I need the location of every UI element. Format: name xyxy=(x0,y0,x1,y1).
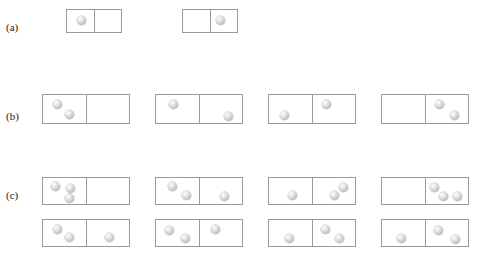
box-half-right xyxy=(199,220,242,246)
box-partition-divider xyxy=(210,10,211,32)
box-partition-divider xyxy=(86,95,87,123)
particle-ball xyxy=(439,192,448,201)
particle-ball xyxy=(182,191,191,200)
particle-ball xyxy=(322,100,331,109)
microstate-box xyxy=(268,94,356,124)
particle-ball xyxy=(165,226,174,235)
particle-ball xyxy=(288,191,297,200)
particle-ball xyxy=(280,111,289,120)
microstate-box xyxy=(381,94,469,124)
box-half-right xyxy=(312,95,355,123)
particle-ball xyxy=(53,225,62,234)
box-partition-divider xyxy=(86,178,87,204)
particle-ball xyxy=(430,183,439,192)
row-label-a: (a) xyxy=(6,22,18,33)
particle-ball xyxy=(216,16,225,25)
microstate-box xyxy=(381,177,469,205)
particle-ball xyxy=(335,234,344,243)
particle-ball xyxy=(77,16,86,25)
box-partition-divider xyxy=(199,95,200,123)
box-half-left xyxy=(183,10,210,32)
box-half-left xyxy=(269,95,312,123)
box-partition-divider xyxy=(312,178,313,204)
microstate-box xyxy=(155,219,243,247)
box-partition-divider xyxy=(425,178,426,204)
particle-ball xyxy=(168,182,177,191)
particle-ball xyxy=(220,192,229,201)
particle-ball xyxy=(51,182,60,191)
particle-ball xyxy=(105,233,114,242)
particle-ball xyxy=(397,234,406,243)
box-half-left xyxy=(156,178,199,204)
box-partition-divider xyxy=(199,178,200,204)
particle-ball xyxy=(211,225,220,234)
figure-canvas: (a)(b)(c) xyxy=(0,0,477,253)
microstate-box xyxy=(66,9,122,33)
particle-ball xyxy=(321,225,330,234)
box-half-right xyxy=(94,10,121,32)
particle-ball xyxy=(169,100,178,109)
particle-ball xyxy=(453,192,462,201)
box-partition-divider xyxy=(312,95,313,123)
box-half-right xyxy=(86,178,129,204)
particle-ball xyxy=(435,100,444,109)
microstate-box xyxy=(268,177,356,205)
particle-ball xyxy=(53,100,62,109)
particle-ball xyxy=(224,112,233,121)
box-half-right xyxy=(425,95,468,123)
box-half-right xyxy=(199,95,242,123)
box-partition-divider xyxy=(425,220,426,246)
particle-ball xyxy=(65,194,74,203)
box-half-left xyxy=(382,178,425,204)
microstate-box xyxy=(268,219,356,247)
box-partition-divider xyxy=(425,95,426,123)
box-half-left xyxy=(156,220,199,246)
box-partition-divider xyxy=(86,220,87,246)
microstate-box xyxy=(42,219,130,247)
box-half-left xyxy=(43,95,86,123)
particle-ball xyxy=(65,233,74,242)
row-label-c: (c) xyxy=(6,190,18,201)
box-partition-divider xyxy=(199,220,200,246)
box-half-right xyxy=(86,95,129,123)
particle-ball xyxy=(451,235,460,244)
microstate-box xyxy=(155,94,243,124)
box-partition-divider xyxy=(312,220,313,246)
box-half-right xyxy=(425,220,468,246)
box-half-left xyxy=(43,220,86,246)
particle-ball xyxy=(450,111,459,120)
particle-ball xyxy=(339,183,348,192)
microstate-box xyxy=(42,177,130,205)
row-label-b: (b) xyxy=(6,111,19,122)
microstate-box xyxy=(155,177,243,205)
box-half-left xyxy=(382,95,425,123)
box-partition-divider xyxy=(94,10,95,32)
box-half-right xyxy=(199,178,242,204)
particle-ball xyxy=(434,226,443,235)
particle-ball xyxy=(181,234,190,243)
box-half-left xyxy=(156,95,199,123)
particle-ball xyxy=(66,184,75,193)
particle-ball xyxy=(330,191,339,200)
microstate-box xyxy=(182,9,238,33)
microstate-box xyxy=(381,219,469,247)
box-half-right xyxy=(312,220,355,246)
particle-ball xyxy=(285,234,294,243)
particle-ball xyxy=(65,110,74,119)
microstate-box xyxy=(42,94,130,124)
